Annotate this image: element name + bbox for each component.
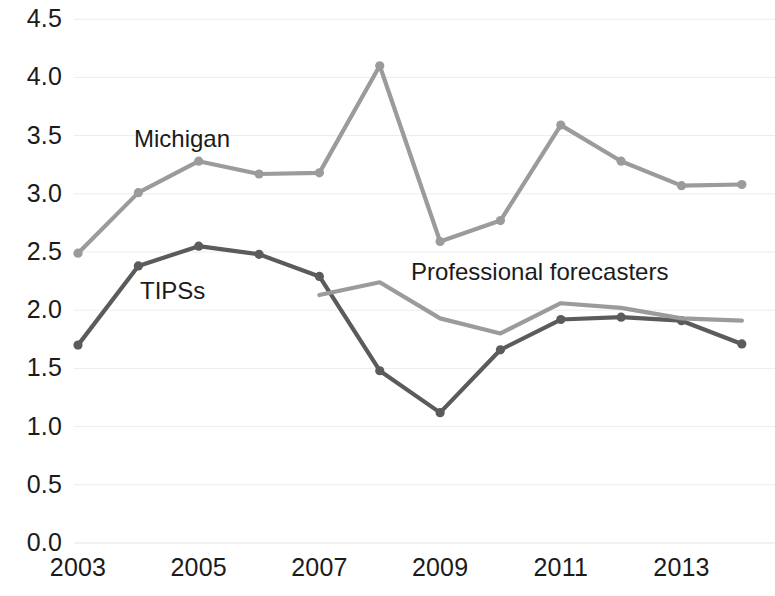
y-axis-tick-label: 3.5 (0, 123, 62, 148)
series-line-professional-forecasters (319, 282, 741, 333)
data-point-marker (496, 216, 505, 225)
data-point-marker (737, 339, 746, 348)
data-point-marker (375, 366, 384, 375)
data-point-marker (194, 242, 203, 251)
data-point-marker (677, 181, 686, 190)
data-point-marker (556, 315, 565, 324)
data-point-marker (556, 121, 565, 130)
data-point-marker (315, 272, 324, 281)
y-axis-tick-label: 0.5 (0, 472, 62, 497)
data-point-marker (254, 250, 263, 259)
x-axis-tick-label: 2005 (154, 555, 244, 580)
y-axis-tick-label: 1.5 (0, 355, 62, 380)
series-label-tipss: TIPSs (140, 278, 205, 304)
y-axis-tick-label: 3.0 (0, 181, 62, 206)
series-label-michigan: Michigan (134, 126, 230, 152)
y-axis-tick-label: 1.0 (0, 414, 62, 439)
x-axis-tick-label: 2007 (274, 555, 364, 580)
x-axis-tick-label: 2013 (637, 555, 727, 580)
inflation-expectations-line-chart: 0.00.51.01.52.02.53.03.54.04.5 200320052… (0, 0, 775, 596)
series-line-michigan (78, 66, 742, 253)
y-axis-tick-label: 0.0 (0, 530, 62, 555)
data-point-marker (73, 249, 82, 258)
data-point-marker (496, 345, 505, 354)
data-point-marker (436, 237, 445, 246)
data-point-marker (375, 61, 384, 70)
y-axis-tick-label: 4.0 (0, 64, 62, 89)
data-point-marker (134, 188, 143, 197)
data-series-group (73, 61, 746, 417)
y-axis-tick-label: 2.5 (0, 239, 62, 264)
data-point-marker (617, 313, 626, 322)
data-point-marker (73, 341, 82, 350)
x-axis-tick-label: 2003 (33, 555, 123, 580)
x-axis-tick-label: 2009 (395, 555, 485, 580)
x-axis-tick-label: 2011 (516, 555, 606, 580)
data-point-marker (737, 180, 746, 189)
data-point-marker (194, 157, 203, 166)
series-label-professional-forecasters: Professional forecasters (411, 259, 668, 285)
data-point-marker (134, 261, 143, 270)
data-point-marker (254, 169, 263, 178)
data-point-marker (436, 408, 445, 417)
chart-plot-area (0, 0, 775, 596)
data-point-marker (617, 157, 626, 166)
y-axis-tick-label: 2.0 (0, 297, 62, 322)
data-point-marker (315, 168, 324, 177)
y-axis-tick-label: 4.5 (0, 6, 62, 31)
